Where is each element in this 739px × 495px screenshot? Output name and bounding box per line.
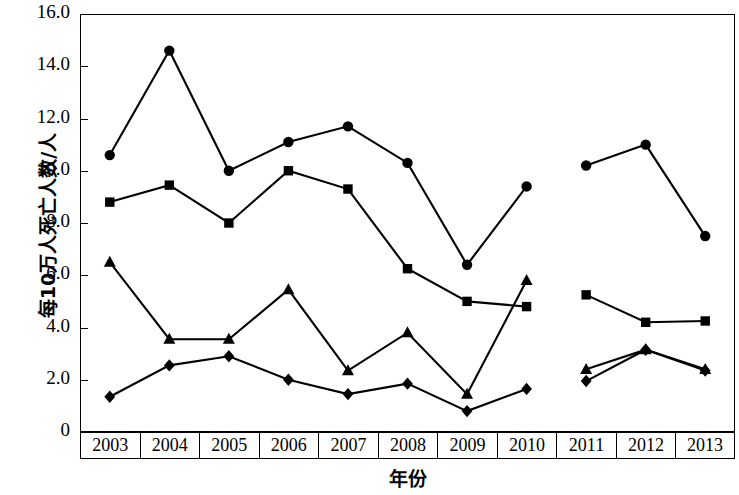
y-tick-mark	[80, 119, 88, 120]
y-tick-label: 14.0	[8, 53, 70, 75]
y-tick-mark	[80, 223, 88, 224]
x-axis-year-box: 2004	[140, 432, 200, 459]
y-tick-label: 4.0	[8, 315, 70, 337]
y-tick-mark	[80, 380, 88, 381]
y-tick-mark	[80, 171, 88, 172]
y-tick-mark	[80, 328, 88, 329]
x-axis-year-box: 2011	[556, 432, 616, 459]
x-axis-year-box: 2008	[378, 432, 438, 459]
x-axis-year-box: 2009	[437, 432, 497, 459]
y-tick-mark	[80, 66, 88, 67]
y-tick-label: 0	[8, 419, 70, 441]
y-tick-label: 2.0	[8, 367, 70, 389]
x-axis-year-box: 2003	[80, 432, 140, 459]
x-axis-year-boxes: 2003200420052006200720082009201020112012…	[80, 432, 735, 459]
plot-area	[80, 14, 735, 432]
line-chart: 每10万人死亡人数/人 16.014.012.010.08.06.04.02.0…	[0, 0, 739, 495]
x-axis-year-box: 2006	[259, 432, 319, 459]
y-tick-mark	[80, 275, 88, 276]
y-tick-label: 16.0	[8, 1, 70, 23]
x-axis-year-box: 2007	[318, 432, 378, 459]
x-axis-title: 年份	[80, 464, 735, 491]
x-axis-year-box: 2010	[497, 432, 557, 459]
x-axis-year-box: 2012	[616, 432, 676, 459]
y-tick-label: 12.0	[8, 106, 70, 128]
y-tick-label: 8.0	[8, 210, 70, 232]
x-axis-year-box: 2013	[675, 432, 735, 459]
x-axis-year-box: 2005	[199, 432, 259, 459]
y-tick-label: 6.0	[8, 262, 70, 284]
y-tick-label: 10.0	[8, 158, 70, 180]
